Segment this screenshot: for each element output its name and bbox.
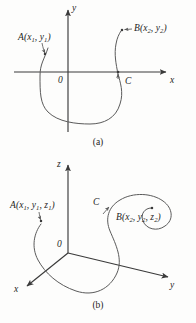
panel-a-2d-diagram: y x 0 A(x1, y1) B(x2, y2) C (a)	[0, 0, 196, 160]
panel-a-point-B-dot	[121, 29, 124, 32]
panel-a-label-B-coord-0-sub: 2	[148, 27, 151, 34]
panel-a-label-A-coord-1-sub: 1	[44, 36, 47, 43]
panel-b-3d-diagram: z y x 0 A(x1, y1, z1) B(x2, y2, z2) C (b…	[0, 155, 196, 323]
panel-a-point-C-dot	[117, 71, 120, 74]
figure-root: y x 0 A(x1, y1) B(x2, y2) C (a)	[0, 0, 196, 323]
panel-b-label-A-close: )	[51, 200, 54, 210]
panel-a-caption: (a)	[0, 137, 196, 147]
panel-b-label-A-coord-2-sub: 1	[48, 204, 51, 211]
panel-b-label-point-B: B(x2, y2, z2)	[116, 213, 161, 223]
panel-b-label-A-coord-1-sub: 1	[36, 204, 39, 211]
panel-a-label-A-coord-0-var: x	[27, 32, 31, 42]
panel-b-graphic	[0, 155, 196, 323]
panel-a-label-A-coord-0-sub: 1	[32, 36, 35, 43]
panel-a-label-B-coord-0-var: x	[143, 23, 147, 33]
panel-a-curve-label-C: C	[125, 77, 131, 87]
panel-b-label-point-A: A(x1, y1, z1)	[10, 201, 55, 211]
panel-b-curve-label-C: C	[93, 198, 99, 208]
panel-a-x-axis-label: x	[170, 76, 174, 86]
panel-b-y-axis-label: y	[170, 281, 174, 291]
panel-a-leader-B	[125, 29, 133, 30]
panel-b-leader-C	[103, 207, 109, 214]
panel-a-y-axis-label: y	[72, 4, 76, 14]
panel-b-label-A-coord-0-var: x	[19, 200, 23, 210]
panel-b-z-axis-label: z	[57, 160, 61, 170]
panel-b-label-B-close: )	[157, 212, 160, 222]
panel-b-y-axis	[68, 253, 168, 277]
panel-b-point-B-dot	[151, 207, 154, 210]
panel-b-point-A-dot	[40, 220, 43, 223]
panel-b-label-B-coord-0-var: x	[125, 212, 129, 222]
panel-b-x-axis	[27, 253, 68, 286]
panel-a-curve-C	[40, 31, 122, 124]
panel-a-label-point-A: A(x1, y1)	[18, 33, 51, 43]
panel-a-label-A-close: )	[47, 32, 50, 42]
panel-b-label-A-coord-0-sub: 1	[24, 204, 27, 211]
panel-b-caption: (b)	[0, 300, 196, 310]
panel-b-x-axis-label: x	[14, 285, 18, 295]
panel-a-label-B-close: )	[163, 23, 166, 33]
panel-a-label-B-coord-1-sub: 2	[160, 27, 163, 34]
panel-b-label-B-coord-0-sub: 2	[130, 216, 133, 223]
panel-a-label-point-B: B(x2, y2)	[134, 24, 167, 34]
panel-b-label-B-coord-1-sub: 2	[142, 216, 145, 223]
panel-b-origin-label: 0	[57, 240, 62, 250]
panel-a-origin-label: 0	[58, 76, 63, 86]
panel-b-leader-A	[39, 212, 41, 220]
panel-b-label-B-coord-2-sub: 2	[154, 216, 157, 223]
panel-a-leader-A	[42, 43, 45, 53]
